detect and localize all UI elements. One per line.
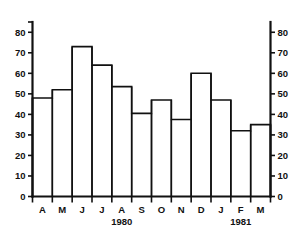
left-y-axis: 01020304050607080 bbox=[15, 22, 33, 202]
y-tick-label-left: 50 bbox=[15, 88, 26, 99]
x-axis-category-label: N bbox=[178, 204, 185, 215]
x-axis-category-label: M bbox=[257, 204, 265, 215]
y-tick-label-right: 60 bbox=[278, 68, 289, 79]
x-axis-category-label: A bbox=[39, 204, 46, 215]
x-axis-category-label: A bbox=[118, 204, 125, 215]
y-tick-label-right: 40 bbox=[278, 109, 289, 120]
year-label: 1981 bbox=[230, 216, 252, 227]
y-tick-label-right: 70 bbox=[278, 47, 289, 58]
x-axis-category-label: F bbox=[238, 204, 244, 215]
y-tick-label-right: 10 bbox=[278, 170, 289, 181]
y-tick-label-left: 80 bbox=[15, 27, 26, 38]
x-axis bbox=[33, 197, 271, 203]
y-tick-label-right: 50 bbox=[278, 88, 289, 99]
y-tick-label-right: 30 bbox=[278, 129, 289, 140]
right-y-axis: 01020304050607080 bbox=[271, 22, 289, 202]
x-axis-category-label: O bbox=[158, 204, 165, 215]
y-tick-label-left: 40 bbox=[15, 109, 26, 120]
y-tick-label-right: 80 bbox=[278, 27, 289, 38]
y-tick-label-left: 60 bbox=[15, 68, 26, 79]
y-tick-label-left: 10 bbox=[15, 170, 26, 181]
year-annotations: 19801981 bbox=[111, 216, 252, 227]
y-tick-label-left: 30 bbox=[15, 129, 26, 140]
y-tick-label-right: 0 bbox=[278, 191, 283, 202]
y-tick-label-right: 20 bbox=[278, 150, 289, 161]
y-tick-label-left: 70 bbox=[15, 47, 26, 58]
x-axis-category-label: J bbox=[99, 204, 104, 215]
x-axis-category-label: J bbox=[79, 204, 84, 215]
x-axis-category-label: J bbox=[218, 204, 223, 215]
bars-series bbox=[33, 47, 271, 197]
year-label: 1980 bbox=[111, 216, 132, 227]
y-tick-label-left: 20 bbox=[15, 150, 26, 161]
x-axis-category-label: S bbox=[138, 204, 144, 215]
x-axis-category-label: M bbox=[58, 204, 66, 215]
chart-canvas: 01020304050607080 01020304050607080 AMJJ… bbox=[0, 0, 304, 232]
bar-chart: 01020304050607080 01020304050607080 AMJJ… bbox=[0, 0, 304, 232]
x-axis-tick-labels: AMJJASONDJFM bbox=[39, 204, 265, 215]
x-axis-category-label: D bbox=[198, 204, 205, 215]
y-tick-label-left: 0 bbox=[20, 191, 25, 202]
